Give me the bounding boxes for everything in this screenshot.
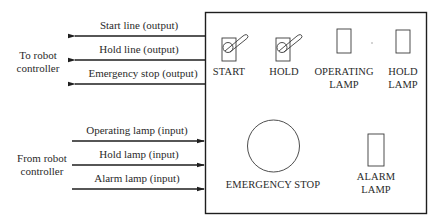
toggle-switch-icon [276,35,302,61]
svg-text:HOLD: HOLD [269,66,299,77]
hold-lamp: HOLD LAMP [388,30,418,90]
hold-switch: HOLD [269,35,302,77]
from-robot-controller-label: From robot controller [17,152,67,177]
emergency-stop-button-icon [248,120,300,172]
svg-text:Start line (output): Start line (output) [100,19,179,32]
svg-text:To robot: To robot [19,49,56,61]
input-signal-alarm-lamp: Alarm lamp (input) [72,172,204,189]
svg-text:OPERATING: OPERATING [314,66,374,77]
svg-text:LAMP: LAMP [329,79,359,90]
lamp-icon [396,30,410,53]
svg-text:From robot: From robot [17,152,67,164]
svg-text:Alarm lamp (input): Alarm lamp (input) [94,172,180,185]
svg-text:Hold line (output): Hold line (output) [99,43,179,56]
alarm-lamp: ALARM LAMP [357,134,396,195]
lamp-icon [368,134,384,166]
svg-text:Emergency stop (output): Emergency stop (output) [88,67,197,80]
to-robot-controller-label: To robot controller [17,49,60,74]
input-signal-hold-lamp: Hold lamp (input) [72,148,204,165]
robot-control-panel-diagram: To robot controller From robot controlle… [0,0,439,223]
toggle-switch-icon [222,35,248,61]
output-signal-start-line: Start line (output) [75,19,205,36]
svg-text:ALARM: ALARM [357,171,396,182]
svg-text:Operating lamp (input): Operating lamp (input) [86,124,188,137]
svg-text:LAMP: LAMP [361,184,391,195]
svg-text:Hold lamp (input): Hold lamp (input) [99,148,179,161]
svg-text:EMERGENCY STOP: EMERGENCY STOP [226,179,321,190]
emergency-stop: EMERGENCY STOP [226,120,321,190]
svg-text:controller: controller [17,62,60,74]
svg-text:controller: controller [21,165,64,177]
svg-text:LAMP: LAMP [388,79,418,90]
output-signal-emergency-stop: Emergency stop (output) [75,67,205,84]
input-signal-operating-lamp: Operating lamp (input) [72,124,204,141]
svg-text:HOLD: HOLD [388,66,418,77]
operating-lamp: OPERATING LAMP [314,29,374,90]
start-switch: START [213,35,248,77]
lamp-icon [337,29,351,53]
svg-text:START: START [213,66,246,77]
stray-dot [371,42,372,43]
output-signal-hold-line: Hold line (output) [75,43,205,60]
